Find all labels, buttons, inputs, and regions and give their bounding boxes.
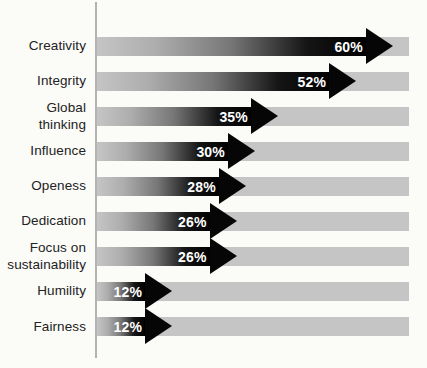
value-label: 28% [187, 179, 219, 195]
category-label: Creativity [0, 29, 86, 65]
category-label: Dedication [0, 204, 86, 240]
arrow-head-icon [145, 273, 172, 309]
value-label: 60% [334, 39, 366, 55]
value-label: 52% [298, 74, 330, 90]
arrow-shaft: 28% [97, 177, 219, 196]
arrow-head-icon [329, 63, 356, 99]
arrow-head-icon [210, 238, 237, 274]
category-label: Focus on sustainability [0, 239, 86, 275]
arrow-bar: 12% [97, 282, 172, 301]
arrow-shaft: 12% [97, 317, 145, 336]
arrow-head-icon [251, 98, 278, 134]
arrow-head-icon [228, 133, 255, 169]
arrow-head-icon [210, 203, 237, 239]
category-label: Integrity [0, 64, 86, 100]
category-label: Humility [0, 274, 86, 310]
arrow-shaft: 26% [97, 212, 210, 231]
category-label: Influence [0, 134, 86, 170]
arrow-shaft: 52% [97, 72, 329, 91]
arrow-bar: 12% [97, 317, 172, 336]
arrow-head-icon [219, 168, 246, 204]
value-label: 30% [196, 144, 228, 160]
arrow-shaft: 26% [97, 247, 210, 266]
arrow-shaft: 12% [97, 282, 145, 301]
value-label: 26% [178, 214, 210, 230]
category-label: Openess [0, 169, 86, 205]
value-label: 12% [114, 319, 146, 335]
arrow-bar: 30% [97, 142, 255, 161]
arrow-head-icon [145, 308, 172, 344]
category-label: Fairness [0, 309, 86, 345]
arrow-shaft: 60% [97, 37, 366, 56]
arrow-bar: 26% [97, 247, 237, 266]
arrow-bar: 52% [97, 72, 356, 91]
category-label: Global thinking [0, 99, 86, 135]
arrow-bar: 35% [97, 107, 278, 126]
arrow-shaft: 30% [97, 142, 228, 161]
value-label: 26% [178, 249, 210, 265]
arrow-bar: 60% [97, 37, 393, 56]
value-label: 12% [114, 284, 146, 300]
arrow-bar: 28% [97, 177, 246, 196]
arrow-shaft: 35% [97, 107, 251, 126]
arrow-bar-chart: Creativity60%Integrity52%Global thinking… [0, 0, 427, 368]
arrow-head-icon [366, 28, 393, 64]
value-label: 35% [219, 109, 251, 125]
arrow-bar: 26% [97, 212, 237, 231]
